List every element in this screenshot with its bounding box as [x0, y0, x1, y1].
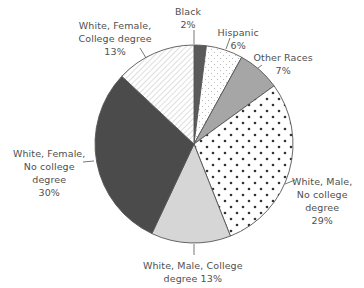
- label-line: 13%: [79, 45, 152, 58]
- label-line: Other Races: [254, 51, 313, 64]
- label-black: Black2%: [175, 5, 201, 31]
- label-line: degree: [13, 173, 85, 186]
- label-line: Hispanic: [218, 26, 259, 39]
- label-line: No college: [292, 188, 352, 201]
- label-line: degree 13%: [143, 272, 243, 285]
- pie-chart: [0, 0, 364, 288]
- label-white-male-no-college-degree: White, Male,No collegedegree29%: [292, 175, 352, 227]
- label-line: 2%: [175, 18, 201, 31]
- label-line: 7%: [254, 64, 313, 77]
- label-line: White, Male, College: [143, 259, 243, 272]
- label-line: Black: [175, 5, 201, 18]
- label-line: White, Male,: [292, 175, 352, 188]
- label-line: 29%: [292, 214, 352, 227]
- label-hispanic: Hispanic6%: [218, 26, 259, 52]
- label-white-female-college-degree: White, Female,College degree13%: [79, 19, 152, 58]
- label-other-races: Other Races7%: [254, 51, 313, 77]
- label-line: 30%: [13, 186, 85, 199]
- label-white-male-college-degree: White, Male, Collegedegree 13%: [143, 259, 243, 285]
- label-line: degree: [292, 201, 352, 214]
- label-line: White, Female,: [13, 147, 85, 160]
- label-line: College degree: [79, 32, 152, 45]
- label-white-female-no-college-degree: White, Female,No collegedegree30%: [13, 147, 85, 199]
- label-line: White, Female,: [79, 19, 152, 32]
- label-line: No college: [13, 160, 85, 173]
